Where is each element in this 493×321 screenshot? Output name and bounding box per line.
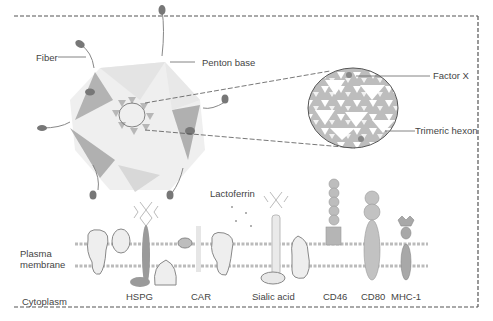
factor-x-label: Factor X xyxy=(433,70,469,81)
plasma-membrane-label-line2: membrane xyxy=(20,259,65,270)
lactoferrin-label: Lactoferrin xyxy=(210,188,255,199)
magnified-hexon-inset xyxy=(308,68,430,148)
factor-x-dot xyxy=(358,136,364,142)
receptor-label-mhc1: MHC-1 xyxy=(391,291,421,302)
receptor-label-hspg: HSPG xyxy=(126,291,153,302)
receptor-label-car: CAR xyxy=(191,291,211,302)
factor-x-dot xyxy=(346,72,352,78)
lactoferrin-particles xyxy=(231,206,252,227)
plasma-membrane-label-line1: Plasma xyxy=(20,248,52,259)
trimeric-hexon-label: Trimeric hexon xyxy=(415,125,477,136)
adenovirus-capsid xyxy=(37,5,229,200)
penton-base-label: Penton base xyxy=(202,57,255,68)
car-receptor xyxy=(196,226,201,272)
receptor-label-cd46: CD46 xyxy=(323,291,347,302)
receptor-label-cd80: CD80 xyxy=(361,291,385,302)
diagram-canvas: Fiber Penton base Factor X Trimeric hexo… xyxy=(0,0,493,321)
fiber-label: Fiber xyxy=(36,52,58,63)
sialic-acid-receptor xyxy=(261,192,288,284)
cytoplasm-label: Cytoplasm xyxy=(22,296,67,307)
mhc1-receptor xyxy=(398,216,414,280)
receptor-label-sialic-acid: Sialic acid xyxy=(252,291,295,302)
cd80-receptor xyxy=(364,191,380,280)
cd46-receptor xyxy=(326,179,341,245)
